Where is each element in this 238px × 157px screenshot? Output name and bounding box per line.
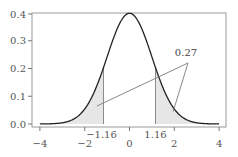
annotation-leader-line (97, 63, 188, 106)
y-tick-label: 0.0 (10, 119, 26, 130)
shaded-tail-regions (40, 68, 219, 124)
annotation-leader-line (173, 63, 188, 112)
y-tick-label: 0.4 (10, 9, 26, 20)
y-tick-label: 0.1 (10, 91, 26, 102)
x-tick-label: 4 (216, 138, 222, 149)
y-tick-label: 0.3 (10, 35, 26, 46)
shaded-region (40, 68, 104, 124)
x-tick-label: 2 (171, 138, 177, 149)
x-axis: −4−2024 (33, 127, 223, 149)
x-tick-label: 0 (126, 138, 132, 149)
cutoff-label: −1.16 (86, 129, 117, 140)
area-annotation: 0.27 (97, 47, 197, 112)
y-tick-label: 0.2 (10, 63, 26, 74)
cutoff-label: 1.16 (144, 129, 166, 140)
x-tick-label: −4 (33, 138, 48, 149)
annotation-label: 0.27 (175, 47, 197, 58)
density-curve (40, 13, 219, 124)
y-axis: 0.00.10.20.30.4 (10, 9, 32, 130)
shaded-region (155, 68, 219, 124)
plot-frame (32, 13, 226, 127)
normal-distribution-chart: 0.00.10.20.30.4 −4−2024 −1.161.16 0.27 (0, 0, 238, 157)
